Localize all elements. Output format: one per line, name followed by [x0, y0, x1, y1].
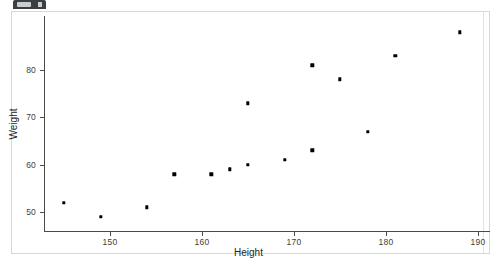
window-tab-close-icon[interactable] [38, 2, 42, 7]
vertical-scrollbar[interactable] [483, 12, 489, 253]
plot-panel [11, 11, 490, 254]
window-tab-icon [17, 2, 31, 7]
window-tab[interactable] [13, 0, 46, 9]
